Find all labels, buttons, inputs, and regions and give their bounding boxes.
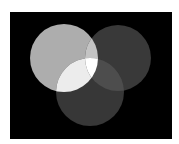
venn-diagram	[0, 0, 179, 144]
